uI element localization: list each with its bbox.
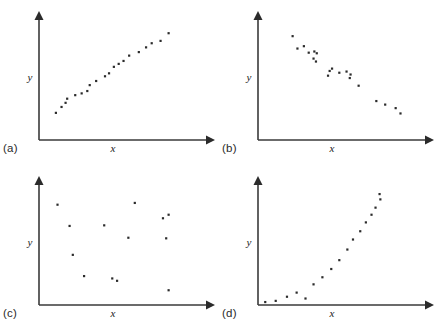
data-point <box>378 193 380 195</box>
panel-d-ylabel: y <box>246 236 252 248</box>
data-point <box>104 75 106 77</box>
panel-a-xlabel: x <box>110 142 116 154</box>
data-point <box>134 202 136 204</box>
data-point <box>83 275 85 277</box>
panel-d-xlabel: x <box>329 307 335 319</box>
data-point <box>359 230 361 232</box>
data-point <box>118 63 120 65</box>
data-point <box>138 51 140 53</box>
data-point <box>128 55 130 57</box>
data-point <box>370 214 372 216</box>
data-point <box>374 207 376 209</box>
data-point <box>395 107 397 109</box>
data-point <box>296 292 298 294</box>
panel-d: x y (d) <box>219 165 437 329</box>
data-point <box>349 73 351 75</box>
data-point <box>168 214 170 216</box>
panel-b-caption: (b) <box>222 143 237 155</box>
data-point <box>60 106 62 108</box>
data-point <box>330 268 332 270</box>
panel-d-plot: x y <box>219 165 437 329</box>
data-point <box>286 296 288 298</box>
data-point <box>111 277 113 279</box>
panel-c-points <box>56 202 169 292</box>
data-point <box>103 224 105 226</box>
data-point <box>379 198 381 200</box>
data-point <box>365 221 367 223</box>
data-point <box>384 104 386 106</box>
data-point <box>168 32 170 34</box>
data-point <box>145 46 147 48</box>
panel-a: x y (a) <box>0 0 218 164</box>
panel-a-axes <box>35 11 216 145</box>
data-point <box>292 35 294 37</box>
panel-c-xlabel: x <box>110 307 116 319</box>
data-point <box>89 84 91 86</box>
panel-c-axes <box>35 176 216 310</box>
data-point <box>113 66 115 68</box>
data-point <box>329 70 331 72</box>
data-point <box>127 237 129 239</box>
data-point <box>316 52 318 54</box>
data-point <box>56 204 58 206</box>
data-point <box>375 100 377 102</box>
panel-d-caption: (d) <box>222 308 237 320</box>
data-point <box>312 283 314 285</box>
data-point <box>68 225 70 227</box>
panel-c-plot: x y <box>0 165 218 329</box>
data-point <box>345 70 347 72</box>
data-point <box>64 102 66 104</box>
panel-a-ylabel: y <box>27 71 33 83</box>
data-point <box>346 248 348 250</box>
data-point <box>162 217 164 219</box>
scatterplot-figure: x y (a) x y (b) x <box>0 0 437 329</box>
panel-b: x y (b) <box>219 0 437 164</box>
data-point <box>352 238 354 240</box>
data-point <box>168 289 170 291</box>
panel-b-plot: x y <box>219 0 437 164</box>
data-point <box>74 94 76 96</box>
data-point <box>331 68 333 70</box>
data-point <box>308 52 310 54</box>
data-point <box>304 297 306 299</box>
data-point <box>275 300 277 302</box>
panel-c: x y (c) <box>0 165 218 329</box>
data-point <box>122 60 124 62</box>
data-point <box>296 47 298 49</box>
panel-a-plot: x y <box>0 0 218 164</box>
data-point <box>312 57 314 59</box>
data-point <box>315 60 317 62</box>
data-point <box>108 72 110 74</box>
data-point <box>349 77 351 79</box>
data-point <box>81 92 83 94</box>
panel-a-caption: (a) <box>3 143 18 155</box>
data-point <box>399 112 401 114</box>
data-point <box>358 85 360 87</box>
data-point <box>313 50 315 52</box>
data-point <box>66 98 68 100</box>
data-point <box>321 276 323 278</box>
data-point <box>55 112 57 114</box>
panel-b-points <box>292 35 402 114</box>
panel-d-points <box>264 193 381 303</box>
panel-d-axes <box>254 176 435 310</box>
data-point <box>303 45 305 47</box>
data-point <box>338 259 340 261</box>
data-point <box>151 42 153 44</box>
data-point <box>165 237 167 239</box>
panel-b-xlabel: x <box>329 142 335 154</box>
data-point <box>264 301 266 303</box>
panel-b-ylabel: y <box>246 71 252 83</box>
panel-a-points <box>55 32 170 114</box>
data-point <box>86 90 88 92</box>
data-point <box>159 40 161 42</box>
panel-c-caption: (c) <box>3 308 17 320</box>
data-point <box>327 75 329 77</box>
data-point <box>338 72 340 74</box>
data-point <box>72 254 74 256</box>
panel-b-axes <box>254 11 435 145</box>
panel-c-ylabel: y <box>27 236 33 248</box>
data-point <box>116 280 118 282</box>
data-point <box>95 80 97 82</box>
